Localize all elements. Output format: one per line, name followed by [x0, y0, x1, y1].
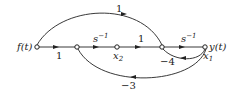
- gain-feedback-minus3: −3: [121, 80, 136, 91]
- gain-n4-to-x1: s−1: [181, 32, 196, 44]
- gain-feedback-minus4: −4: [160, 56, 175, 67]
- gain-n2-to-x2: s−1: [93, 32, 108, 44]
- x2-label: x2: [113, 50, 124, 63]
- arrowhead: [180, 56, 186, 60]
- node-input: [35, 45, 39, 49]
- node-4: [160, 45, 164, 49]
- gain-x2-to-n4: 1: [138, 33, 144, 44]
- node-2: [75, 45, 79, 49]
- input-label: f(t): [16, 41, 33, 52]
- signal-flow-graph: f(t) 1 s−1 x2 1 s−1 y(t) x1 1 −4 −3: [0, 0, 239, 92]
- output-label: y(t): [208, 41, 227, 52]
- node-x1: [203, 45, 207, 49]
- feedback-arc-minus3: [78, 49, 206, 78]
- gain-f-to-n2: 1: [56, 50, 62, 61]
- gain-feedforward: 1: [116, 3, 122, 14]
- node-x2: [115, 45, 119, 49]
- arrowhead: [130, 75, 136, 79]
